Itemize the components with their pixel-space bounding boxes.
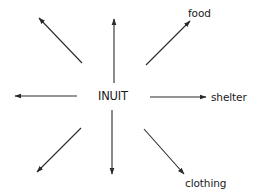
center-label-inuit: INUIT: [98, 90, 128, 102]
label-shelter: shelter: [211, 91, 247, 103]
arrow-upper-left-icon: [39, 18, 82, 63]
label-food: food: [188, 7, 211, 19]
arrow-upper-right-icon: [146, 21, 190, 65]
arrow-lower-right-icon: [144, 129, 184, 174]
diagram-canvas: INUIT food shelter clothing: [0, 0, 257, 194]
label-clothing: clothing: [185, 177, 226, 189]
arrow-lower-left-icon: [37, 128, 81, 172]
